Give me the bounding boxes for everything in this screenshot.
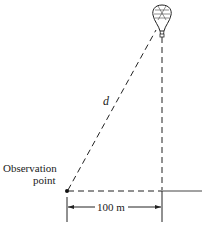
arrowhead-right: [155, 205, 161, 209]
horizontal-distance-label: 100 m: [97, 201, 125, 213]
distance-d-line: [68, 30, 156, 190]
observation-point-dot: [65, 189, 69, 193]
observation-label-line1: Observation: [3, 162, 57, 174]
arrowhead-left: [68, 205, 74, 209]
observation-label-line2: point: [33, 174, 56, 186]
diagram-canvas: [0, 0, 206, 231]
hot-air-balloon-icon: [153, 5, 171, 37]
distance-label: d: [103, 95, 109, 107]
